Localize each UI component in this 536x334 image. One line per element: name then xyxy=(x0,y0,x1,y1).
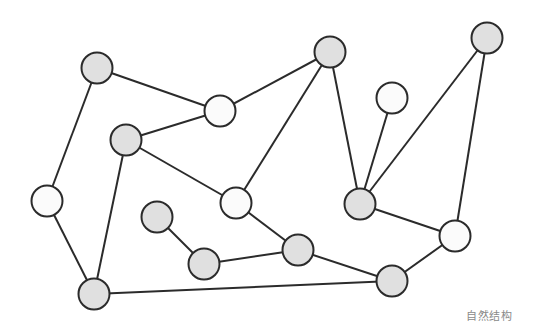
node-B xyxy=(205,96,236,127)
node-C xyxy=(111,125,142,156)
edge-K-I xyxy=(360,38,487,204)
node-N xyxy=(377,266,408,297)
node-G xyxy=(377,83,408,114)
edges-group xyxy=(47,38,487,294)
node-A xyxy=(82,53,113,84)
edge-C-H xyxy=(126,140,236,203)
edge-B-F xyxy=(220,52,330,111)
edge-M-N xyxy=(94,281,392,294)
edge-A-E xyxy=(47,68,97,201)
network-diagram xyxy=(0,0,536,334)
edge-A-B xyxy=(97,68,220,111)
nodes-group xyxy=(32,23,503,310)
node-M xyxy=(79,279,110,310)
node-L xyxy=(283,235,314,266)
edge-F-H xyxy=(236,52,330,203)
node-K xyxy=(472,23,503,54)
edge-F-I xyxy=(330,52,360,204)
edge-G-I xyxy=(360,98,392,204)
node-I xyxy=(345,189,376,220)
caption-label: 自然结构 xyxy=(466,307,512,323)
node-F xyxy=(315,37,346,68)
edge-C-M xyxy=(94,140,126,294)
node-J xyxy=(440,221,471,252)
edge-K-J xyxy=(455,38,487,236)
node-P xyxy=(189,249,220,280)
node-E xyxy=(32,186,63,217)
node-D xyxy=(142,202,173,233)
node-H xyxy=(221,188,252,219)
